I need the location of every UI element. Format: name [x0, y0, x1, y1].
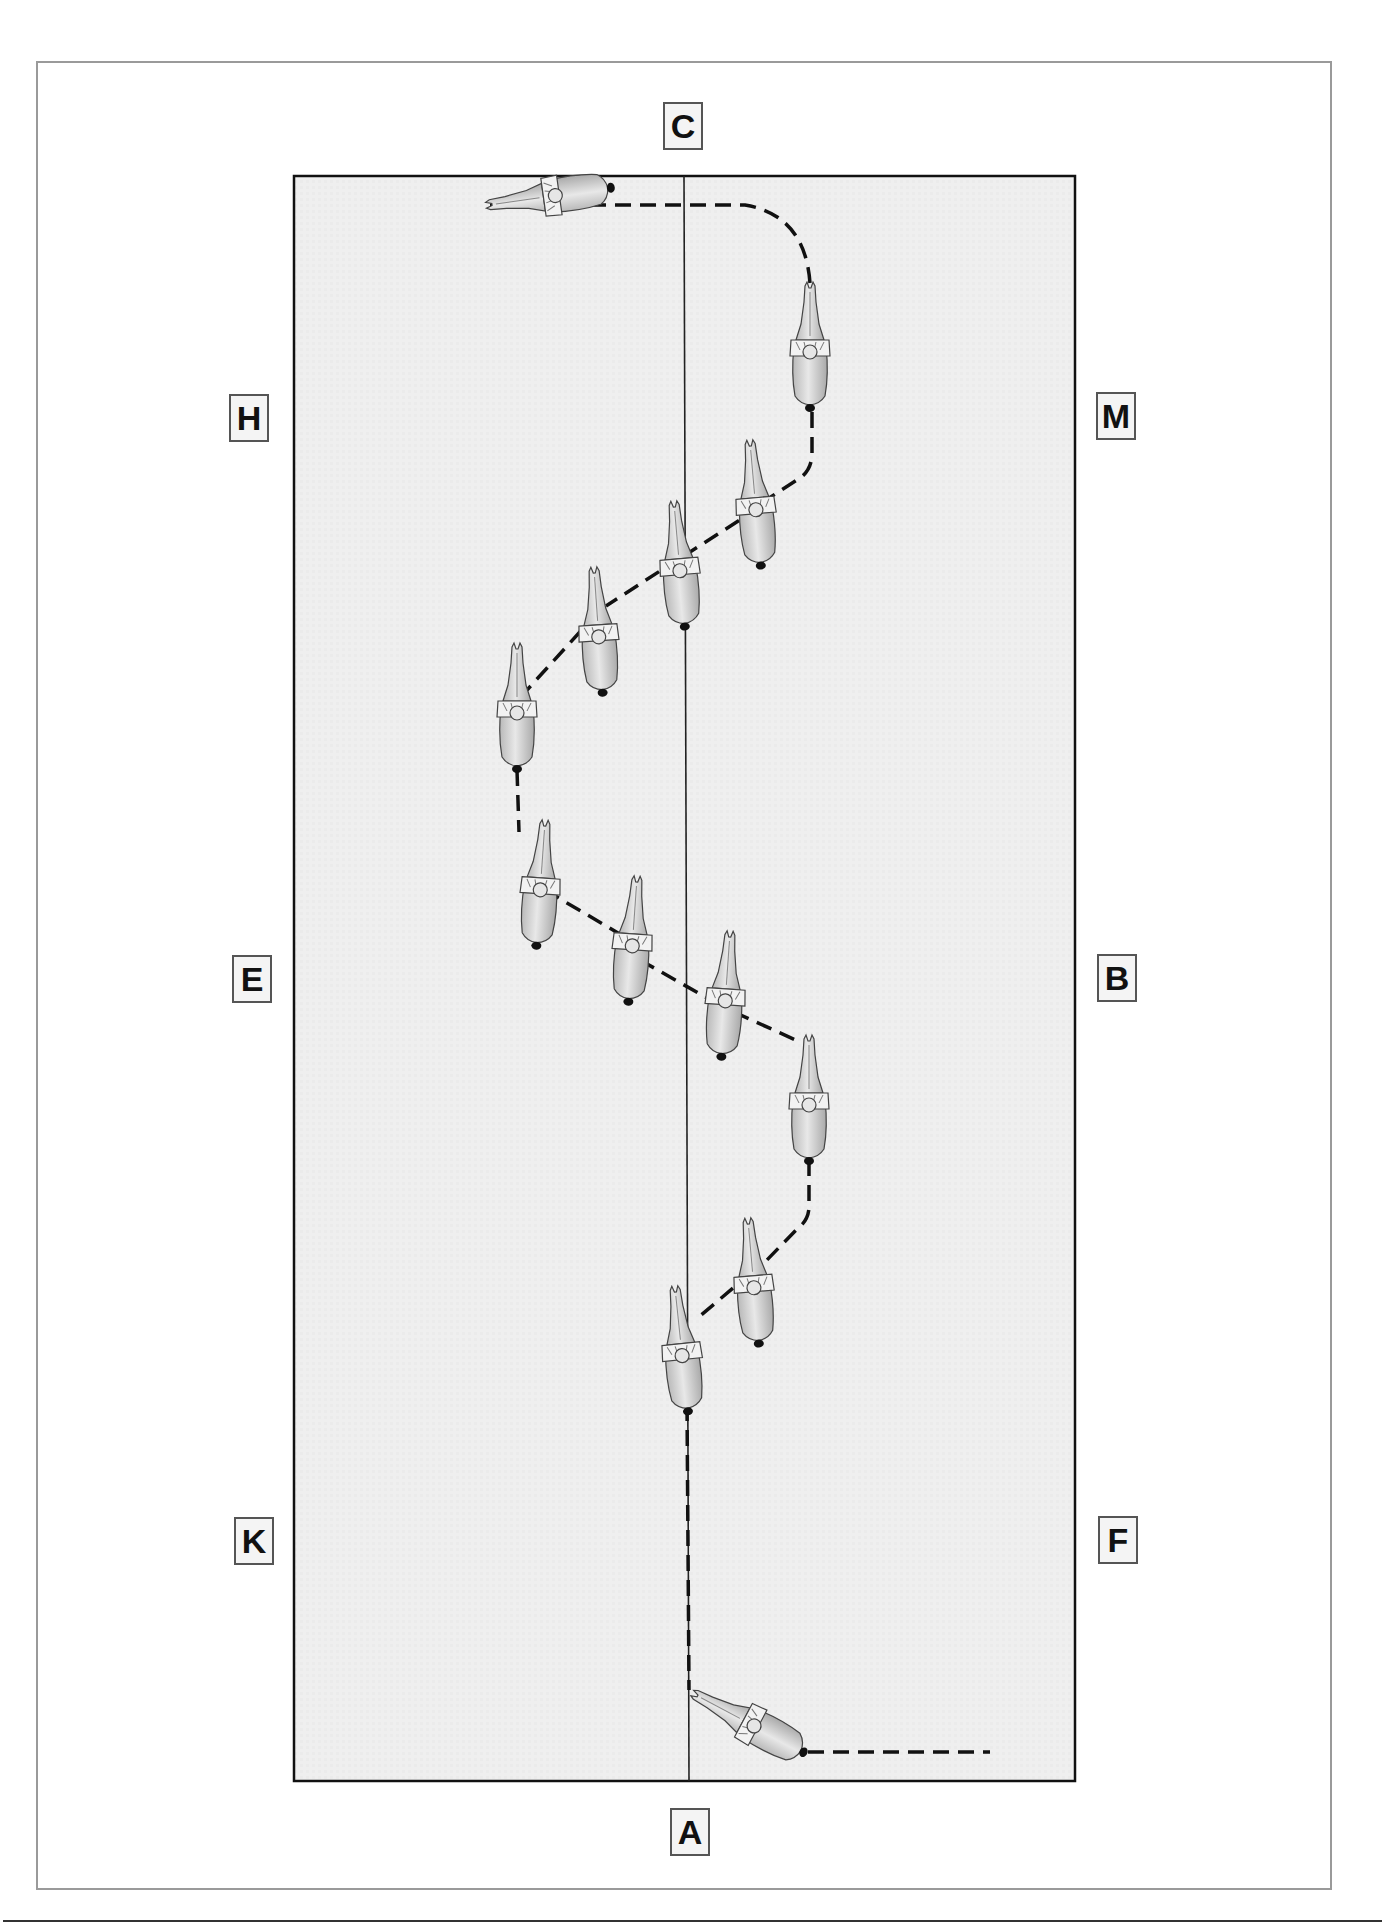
marker-h: H [229, 394, 269, 442]
marker-label: H [237, 399, 262, 438]
marker-a: A [670, 1808, 710, 1856]
marker-label: F [1108, 1521, 1129, 1560]
marker-label: C [671, 107, 696, 146]
marker-label: E [241, 960, 264, 999]
marker-c: C [663, 102, 703, 150]
marker-label: M [1102, 397, 1130, 436]
marker-k: K [234, 1517, 274, 1565]
marker-b: B [1097, 954, 1137, 1002]
marker-label: B [1105, 959, 1130, 998]
arena-diagram [0, 0, 1382, 1928]
marker-label: A [678, 1813, 703, 1852]
marker-m: M [1096, 392, 1136, 440]
marker-label: K [242, 1522, 267, 1561]
marker-e: E [232, 955, 272, 1003]
marker-f: F [1098, 1516, 1138, 1564]
